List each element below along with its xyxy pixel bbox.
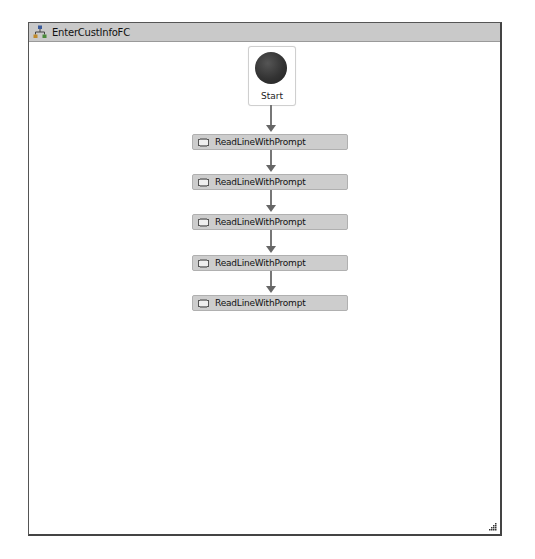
start-circle-icon (255, 52, 287, 84)
activity-label: ReadLineWithPrompt (215, 298, 306, 308)
activity-readlinewithprompt-2[interactable]: ReadLineWithPrompt (192, 174, 348, 190)
connector-line (270, 150, 272, 166)
activity-label: ReadLineWithPrompt (215, 217, 306, 227)
flowchart-designer: EnterCustInfoFC Start ReadLineWithPrompt… (28, 22, 502, 536)
start-node[interactable]: Start (248, 46, 296, 106)
activity-icon (198, 138, 209, 147)
activity-icon (198, 259, 209, 268)
arrow-down-icon (266, 246, 276, 253)
activity-icon (198, 218, 209, 227)
arrow-down-icon (266, 205, 276, 212)
connector-line (270, 190, 272, 206)
resize-grip-icon[interactable] (489, 523, 497, 531)
connector-line (270, 230, 272, 247)
activity-readlinewithprompt-4[interactable]: ReadLineWithPrompt (192, 255, 348, 271)
activity-readlinewithprompt-5[interactable]: ReadLineWithPrompt (192, 295, 348, 311)
arrow-down-icon (266, 286, 276, 293)
activity-icon (198, 299, 209, 308)
activity-icon (198, 178, 209, 187)
arrow-down-icon (266, 165, 276, 172)
activity-label: ReadLineWithPrompt (215, 258, 306, 268)
activity-readlinewithprompt-1[interactable]: ReadLineWithPrompt (192, 134, 348, 150)
activity-label: ReadLineWithPrompt (215, 137, 306, 147)
connector-line (270, 271, 272, 287)
start-label: Start (249, 91, 295, 101)
arrow-down-icon (266, 125, 276, 132)
designer-title-bar[interactable]: EnterCustInfoFC (29, 23, 500, 42)
designer-title: EnterCustInfoFC (52, 27, 130, 38)
flowchart-icon (33, 25, 47, 39)
connector-line (270, 105, 272, 127)
activity-label: ReadLineWithPrompt (215, 177, 306, 187)
activity-readlinewithprompt-3[interactable]: ReadLineWithPrompt (192, 214, 348, 230)
